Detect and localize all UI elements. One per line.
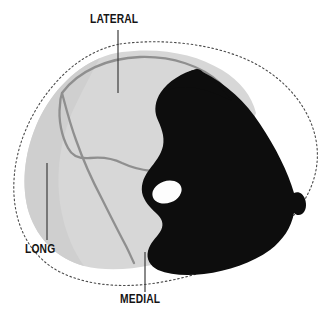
label-lateral: LATERAL bbox=[90, 13, 138, 26]
anatomical-cross-section-figure bbox=[0, 0, 331, 323]
label-long: LONG bbox=[25, 243, 55, 256]
label-medial: MEDIAL bbox=[120, 293, 160, 306]
